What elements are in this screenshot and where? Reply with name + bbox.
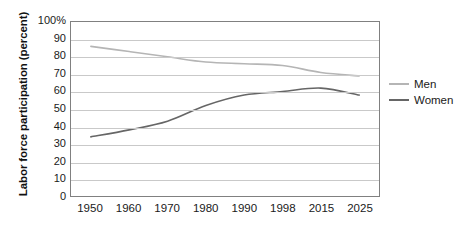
line-chart: Labor force participation (percent) 0102… xyxy=(0,0,473,233)
gridline xyxy=(71,145,379,146)
y-axis-tick-labels: 0102030405060708090100% xyxy=(28,15,66,205)
y-axis-tick-label: 70 xyxy=(28,68,66,79)
gridline xyxy=(71,40,379,41)
gridline xyxy=(71,180,379,181)
gridline xyxy=(71,110,379,111)
gridline xyxy=(71,128,379,129)
gridline xyxy=(71,163,379,164)
legend-item-label: Women xyxy=(414,94,453,106)
x-axis-tick-label: 2025 xyxy=(347,201,373,215)
legend-line-swatch xyxy=(389,99,409,101)
y-axis-tick-label: 100% xyxy=(28,15,66,26)
legend-item-men[interactable]: Men xyxy=(389,76,473,92)
legend-item-women[interactable]: Women xyxy=(389,92,473,108)
x-axis-tick-label: 1970 xyxy=(154,201,180,215)
x-axis-tick-labels: 19501960197019801990199820152025 xyxy=(70,201,380,219)
series-line-women xyxy=(91,88,359,137)
x-axis-tick-label: 1950 xyxy=(77,201,103,215)
y-axis-tick-label: 30 xyxy=(28,138,66,149)
x-axis-tick-label: 1998 xyxy=(270,201,296,215)
x-axis-tick-label: 1990 xyxy=(231,201,257,215)
y-axis-tick-label: 10 xyxy=(28,173,66,184)
plot-area xyxy=(70,21,380,197)
gridline xyxy=(71,75,379,76)
chart-legend: MenWomen xyxy=(389,76,473,108)
y-axis-tick-label: 60 xyxy=(28,85,66,96)
x-axis-tick-label: 1960 xyxy=(116,201,142,215)
y-axis-tick-label: 50 xyxy=(28,103,66,114)
series-line-men xyxy=(91,46,359,76)
legend-item-label: Men xyxy=(414,78,436,90)
y-axis-tick-label: 80 xyxy=(28,50,66,61)
x-axis-tick-label: 2015 xyxy=(309,201,335,215)
y-axis-tick-label: 20 xyxy=(28,156,66,167)
y-axis-tick-label: 90 xyxy=(28,33,66,44)
y-axis-tick-label: 0 xyxy=(28,191,66,202)
plot-series-svg xyxy=(71,22,379,196)
x-axis-tick-label: 1980 xyxy=(193,201,219,215)
gridline xyxy=(71,57,379,58)
gridline xyxy=(71,92,379,93)
y-axis-tick-label: 40 xyxy=(28,121,66,132)
legend-line-swatch xyxy=(389,83,409,85)
